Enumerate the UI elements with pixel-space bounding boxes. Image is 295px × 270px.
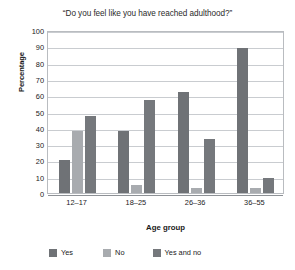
bar: [59, 160, 70, 193]
y-tick-label: 20: [18, 157, 44, 166]
bar: [263, 178, 274, 193]
y-tick-label: 60: [18, 92, 44, 101]
x-tick-label: 18–25: [106, 198, 166, 207]
legend-entry[interactable]: Yes: [49, 248, 73, 257]
y-tick-label: 70: [18, 75, 44, 84]
y-tick-label: 50: [18, 108, 44, 117]
bar: [85, 116, 96, 193]
chart-title: “Do you feel like you have reached adult…: [0, 9, 295, 18]
bar: [72, 131, 83, 193]
bar: [250, 188, 261, 193]
gridline: [48, 195, 283, 196]
bar: [178, 92, 189, 193]
y-tick-label: 10: [18, 173, 44, 182]
bar: [118, 131, 129, 193]
bar-group: [118, 32, 155, 193]
legend-swatch-icon: [103, 249, 111, 257]
y-tick-label: 0: [18, 190, 44, 199]
bars-layer: [48, 32, 283, 193]
legend-label: No: [115, 248, 124, 257]
x-tick-label: 12–17: [47, 198, 107, 207]
y-tick-label: 30: [18, 141, 44, 150]
bar: [144, 100, 155, 193]
bar: [237, 48, 248, 193]
bar: [191, 188, 202, 193]
y-tick-label: 40: [18, 124, 44, 133]
chart-legend: YesNoYes and no: [47, 248, 284, 257]
bar: [131, 185, 142, 193]
bar-group: [59, 32, 96, 193]
legend-swatch-icon: [153, 249, 161, 257]
bar-chart-figure: “Do you feel like you have reached adult…: [0, 0, 295, 270]
x-tick-label: 36–55: [224, 198, 284, 207]
legend-swatch-icon: [49, 249, 57, 257]
y-axis-title: Percentage: [17, 52, 26, 92]
legend-label: Yes and no: [165, 248, 202, 257]
y-tick-label: 80: [18, 59, 44, 68]
legend-label: Yes: [61, 248, 73, 257]
bar-group: [178, 32, 215, 193]
x-tick-label: 26–36: [165, 198, 225, 207]
legend-entry[interactable]: Yes and no: [153, 248, 202, 257]
y-tick-label: 90: [18, 43, 44, 52]
plot-area: [47, 31, 284, 194]
bar-group: [237, 32, 274, 193]
legend-entry[interactable]: No: [103, 248, 124, 257]
x-axis-title: Age group: [47, 223, 284, 232]
bar: [204, 139, 215, 193]
y-tick-label: 100: [18, 27, 44, 36]
